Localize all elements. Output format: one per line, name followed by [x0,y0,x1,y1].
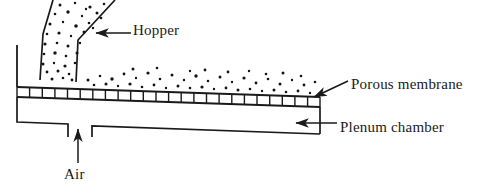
hopper-group [40,0,115,82]
fluidized-bed-diagram [0,0,487,188]
plenum-left-lower-wall [17,97,68,137]
hopper-right-wall [76,0,115,82]
hopper-left-wall [40,0,53,80]
plenum-right-lower-wall [92,126,320,137]
porous-membrane-label: Porous membrane [351,76,463,93]
hopper-label: Hopper [133,22,179,39]
air-label: Air [64,166,85,183]
figure-root: Hopper Porous membrane Plenum chamber Ai… [0,0,487,188]
plenum-chamber-group [17,97,320,137]
hopper-particles [42,2,106,82]
plenum-chamber-label: Plenum chamber [340,119,444,136]
porous-membrane-leader-arrow [314,81,348,97]
